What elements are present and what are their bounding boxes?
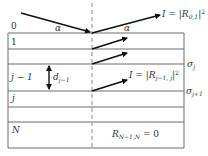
layer-label-n: N bbox=[12, 126, 20, 135]
interface-intensity-label: I = |Rj−1, j|2 bbox=[129, 70, 179, 81]
layer-label-j: j bbox=[12, 94, 15, 103]
intensity-sup: 2 bbox=[201, 8, 205, 15]
layer-label-j-minus-1: j − 1 bbox=[11, 73, 33, 82]
inner-intensity-sub: j−1, j bbox=[156, 74, 172, 81]
partial-reflection-arrow-j bbox=[92, 80, 127, 91]
inner-intensity-lhs: I = |R bbox=[129, 70, 156, 80]
incident-angle-label: α bbox=[55, 24, 61, 33]
surface-intensity-label: I = |R0,1|2 bbox=[162, 9, 205, 20]
roughness-j-sub: j bbox=[193, 63, 195, 70]
intensity-lhs: I = |R bbox=[162, 9, 189, 19]
roughness-label-j: σj bbox=[187, 60, 195, 70]
boundary-condition-label: RN−1,N = 0 bbox=[112, 130, 159, 140]
boundary-base: R bbox=[112, 129, 119, 139]
thickness-sub: j−1 bbox=[59, 76, 70, 83]
roughness-j1-sub: j+1 bbox=[192, 90, 203, 97]
inner-intensity-sup: 2 bbox=[175, 69, 179, 76]
boundary-sub: N−1,N bbox=[119, 133, 140, 140]
layer-label-0: 0 bbox=[11, 22, 17, 31]
partial-reflection-arrow-1 bbox=[92, 38, 127, 49]
intensity-sub: 0,1 bbox=[189, 13, 199, 20]
multilayer-diagram: 0 1 j − 1 j N α α I = |R0,1|2 I = |Rj−1,… bbox=[0, 0, 208, 156]
boundary-rhs: = 0 bbox=[140, 129, 159, 139]
roughness-label-j-plus-1: σj+1 bbox=[186, 87, 203, 97]
layer-label-1: 1 bbox=[11, 38, 17, 47]
reflected-angle-label: α bbox=[124, 24, 130, 33]
partial-reflection-arrow-2 bbox=[92, 53, 127, 64]
thickness-label: dj−1 bbox=[53, 73, 69, 83]
